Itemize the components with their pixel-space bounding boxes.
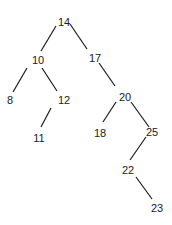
edge-17-20 bbox=[99, 63, 115, 86]
edge-14-10 bbox=[41, 26, 56, 51]
tree-node-14: 14 bbox=[58, 17, 70, 28]
tree-edges bbox=[0, 0, 172, 225]
tree-node-10: 10 bbox=[32, 55, 44, 66]
edge-12-11 bbox=[41, 108, 51, 127]
edge-25-22 bbox=[130, 137, 146, 160]
tree-node-20: 20 bbox=[119, 92, 131, 103]
tree-node-25: 25 bbox=[146, 127, 158, 138]
edge-20-25 bbox=[131, 102, 149, 127]
edge-22-23 bbox=[136, 177, 152, 199]
edge-10-12 bbox=[42, 68, 57, 91]
tree-node-17: 17 bbox=[89, 53, 101, 64]
tree-node-23: 23 bbox=[151, 203, 163, 214]
edge-14-17 bbox=[70, 24, 87, 49]
binary-tree-diagram: 141017812201118252223 bbox=[0, 0, 172, 225]
tree-node-11: 11 bbox=[33, 133, 44, 144]
tree-node-8: 8 bbox=[7, 95, 13, 106]
edge-10-8 bbox=[13, 68, 27, 92]
edge-20-18 bbox=[103, 102, 116, 122]
tree-node-12: 12 bbox=[58, 95, 70, 106]
tree-node-18: 18 bbox=[94, 128, 106, 139]
tree-node-22: 22 bbox=[122, 165, 134, 176]
